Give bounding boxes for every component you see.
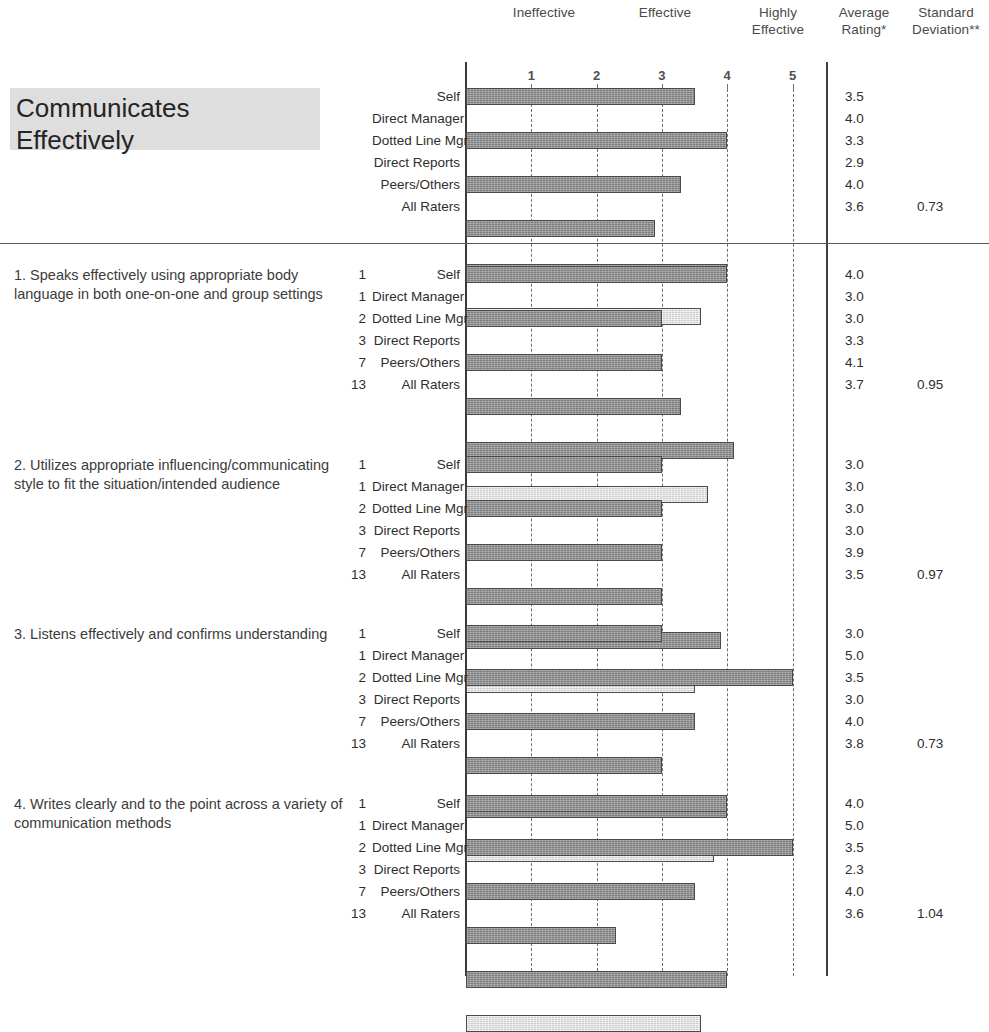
rater-count: 7 [250, 544, 366, 561]
bar-direct-reports [466, 588, 662, 605]
axis-tick-5: 5 [785, 68, 801, 83]
standard-deviation-value: 0.95 [917, 376, 963, 393]
average-rating-value: 2.9 [845, 154, 879, 171]
rater-label-peers-others: Peers/Others [372, 176, 460, 193]
average-rating-value: 3.5 [845, 566, 879, 583]
rater-label-dotted-line-mgr: Dotted Line Mgr [372, 132, 460, 149]
standard-deviation-value: 1.04 [917, 905, 963, 922]
rater-count: 2 [250, 310, 366, 327]
rater-label-all-raters: All Raters [372, 566, 460, 583]
rater-count: 13 [250, 376, 366, 393]
rater-label-peers-others: Peers/Others [372, 713, 460, 730]
standard-deviation-value: 0.97 [917, 566, 963, 583]
rater-label-self: Self [372, 88, 460, 105]
average-rating-value: 3.0 [845, 478, 879, 495]
rater-count: 13 [250, 905, 366, 922]
average-rating-value: 3.5 [845, 88, 879, 105]
rater-count: 1 [250, 288, 366, 305]
average-rating-value: 3.6 [845, 905, 879, 922]
rater-row: 7Peers/Others4.1 [0, 354, 989, 371]
rater-count: 2 [250, 669, 366, 686]
average-rating-value: 3.0 [845, 310, 879, 327]
average-rating-value: 3.5 [845, 839, 879, 856]
rater-label-peers-others: Peers/Others [372, 883, 460, 900]
rater-count: 7 [250, 883, 366, 900]
rater-count: 7 [250, 713, 366, 730]
rater-count: 3 [250, 861, 366, 878]
rater-row: 7Peers/Others4.0 [0, 713, 989, 730]
rater-row: Direct Manager4.0 [0, 110, 989, 127]
average-rating-value: 3.9 [845, 544, 879, 561]
rater-label-all-raters: All Raters [372, 735, 460, 752]
average-rating-value: 4.0 [845, 176, 879, 193]
rater-label-direct-reports: Direct Reports [372, 332, 460, 349]
average-rating-value: 5.0 [845, 647, 879, 664]
rater-row: Peers/Others4.0 [0, 176, 989, 193]
rater-count: 7 [250, 354, 366, 371]
bar-direct-reports [466, 398, 681, 415]
rater-label-peers-others: Peers/Others [372, 354, 460, 371]
rater-count: 3 [250, 522, 366, 539]
section-q1: 1. Speaks effectively using appropriate … [0, 266, 989, 408]
rater-row: All Raters3.60.73 [0, 198, 989, 215]
rater-count: 13 [250, 566, 366, 583]
rater-count: 3 [250, 332, 366, 349]
rater-row: 13All Raters3.70.95 [0, 376, 989, 393]
average-rating-value: 3.0 [845, 500, 879, 517]
rater-row: 3Direct Reports2.3 [0, 861, 989, 878]
rater-row: 1Direct Manager5.0 [0, 647, 989, 664]
average-rating-value: 3.0 [845, 288, 879, 305]
standard-deviation-value: 0.73 [917, 198, 963, 215]
rater-row: Self3.5 [0, 88, 989, 105]
rater-count: 1 [250, 478, 366, 495]
axis-tick-3: 3 [654, 68, 670, 83]
average-rating-value: 3.0 [845, 456, 879, 473]
average-rating-value: 3.3 [845, 332, 879, 349]
rater-label-direct-manager: Direct Manager [372, 288, 460, 305]
average-rating-value: 4.1 [845, 354, 879, 371]
rater-label-peers-others: Peers/Others [372, 544, 460, 561]
bar-self [466, 625, 662, 642]
bar-direct-reports [466, 927, 616, 944]
standard-deviation-value: 0.73 [917, 735, 963, 752]
rater-label-all-raters: All Raters [372, 198, 460, 215]
rater-row: 2Dotted Line Mgr3.0 [0, 310, 989, 327]
rater-label-direct-reports: Direct Reports [372, 861, 460, 878]
rater-row: 1Self3.0 [0, 625, 989, 642]
section-q4: 4. Writes clearly and to the point acros… [0, 795, 989, 937]
rater-label-direct-reports: Direct Reports [372, 691, 460, 708]
section-q2: 2. Utilizes appropriate influencing/comm… [0, 456, 989, 598]
bar-self [466, 456, 662, 473]
average-rating-value: 3.7 [845, 376, 879, 393]
rater-label-all-raters: All Raters [372, 905, 460, 922]
section-q3: 3. Listens effectively and confirms unde… [0, 625, 989, 767]
rater-label-self: Self [372, 625, 460, 642]
rater-label-direct-reports: Direct Reports [372, 522, 460, 539]
rater-label-direct-manager: Direct Manager [372, 817, 460, 834]
rater-label-direct-manager: Direct Manager [372, 647, 460, 664]
rater-row: 3Direct Reports3.3 [0, 332, 989, 349]
rater-label-self: Self [372, 266, 460, 283]
rater-count: 1 [250, 647, 366, 664]
rater-count: 1 [250, 456, 366, 473]
rater-label-dotted-line-mgr: Dotted Line Mgr [372, 310, 460, 327]
average-rating-value: 3.8 [845, 735, 879, 752]
average-rating-value: 4.0 [845, 713, 879, 730]
rater-label-direct-manager: Direct Manager [372, 478, 460, 495]
bar-peers-others [466, 971, 727, 988]
average-rating-value: 4.0 [845, 110, 879, 127]
rater-row: 7Peers/Others4.0 [0, 883, 989, 900]
rater-label-self: Self [372, 795, 460, 812]
average-rating-value: 3.0 [845, 522, 879, 539]
bar-self [466, 795, 727, 812]
rater-row: 1Direct Manager5.0 [0, 817, 989, 834]
average-rating-value: 3.6 [845, 198, 879, 215]
rater-row: 1Self4.0 [0, 266, 989, 283]
bar-self [466, 88, 695, 105]
rater-label-dotted-line-mgr: Dotted Line Mgr [372, 669, 460, 686]
rater-row: 2Dotted Line Mgr3.5 [0, 669, 989, 686]
average-rating-value: 4.0 [845, 266, 879, 283]
bar-all-raters [466, 1015, 701, 1032]
rater-row: 2Dotted Line Mgr3.5 [0, 839, 989, 856]
rater-row: 1Self4.0 [0, 795, 989, 812]
